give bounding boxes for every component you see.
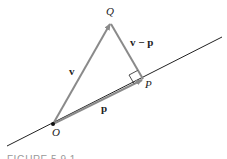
label-vector-p: p — [101, 102, 107, 114]
label-o: O — [52, 126, 60, 138]
label-p-point: P — [144, 78, 152, 90]
label-q: Q — [106, 5, 114, 17]
vector-v-minus-p-arrow — [111, 24, 143, 79]
projection-diagram: Q P O v v − p p FIGURE 5.9.1 — [0, 0, 227, 159]
right-angle-marker — [129, 71, 138, 84]
figure-caption: FIGURE 5.9.1 — [7, 154, 76, 159]
label-vector-v-minus-p: v − p — [130, 36, 153, 48]
line-through-origin — [7, 37, 222, 146]
label-vector-v: v — [69, 65, 75, 77]
